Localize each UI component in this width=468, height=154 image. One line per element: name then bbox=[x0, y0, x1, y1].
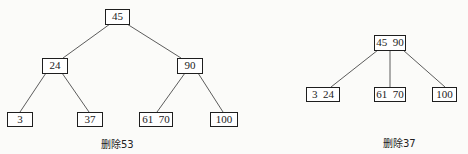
node-100: 100 bbox=[432, 87, 457, 102]
node-90: 90 bbox=[177, 58, 203, 74]
node-45: 45 bbox=[105, 9, 130, 25]
edge-24-37 bbox=[62, 73, 89, 112]
node-3-24: 3 24 bbox=[306, 87, 340, 102]
node-24: 24 bbox=[42, 58, 68, 74]
edge-4590-324 bbox=[331, 50, 378, 87]
node-37: 37 bbox=[77, 112, 103, 127]
edge-4590-100 bbox=[403, 50, 445, 87]
node-61-70: 61 70 bbox=[374, 87, 406, 102]
node-45-90: 45 90 bbox=[374, 35, 406, 51]
edge-90-6170 bbox=[157, 73, 185, 112]
edge-90-100 bbox=[198, 73, 223, 112]
edge-24-3 bbox=[20, 73, 46, 112]
node-100: 100 bbox=[210, 112, 238, 127]
caption-delete-37: 删除37 bbox=[383, 135, 416, 150]
node-61-70: 61 70 bbox=[139, 112, 173, 127]
edge-45-24 bbox=[63, 24, 110, 58]
node-3: 3 bbox=[7, 112, 33, 127]
edge-45-90 bbox=[127, 24, 181, 58]
caption-delete-53: 删除53 bbox=[101, 136, 134, 151]
tree-edges bbox=[0, 0, 468, 154]
